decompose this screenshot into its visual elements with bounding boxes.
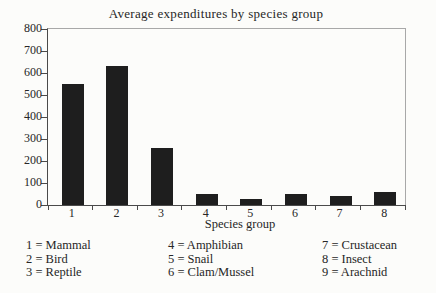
y-tick-label: 100 bbox=[2, 175, 42, 189]
plot-area bbox=[47, 28, 406, 206]
legend-item: 7 = Crustacean bbox=[322, 239, 397, 253]
legend-column: 1 = Mammal2 = Bird3 = Reptile bbox=[26, 239, 91, 280]
legend: 1 = Mammal2 = Bird3 = Reptile4 = Amphibi… bbox=[0, 239, 436, 287]
legend-column: 7 = Crustacean8 = Insect9 = Arachnid bbox=[322, 239, 397, 280]
bar bbox=[374, 192, 396, 205]
x-axis-title: Species group bbox=[140, 217, 340, 232]
x-tick-label: 8 bbox=[362, 206, 407, 220]
y-tick-label: 300 bbox=[2, 131, 42, 145]
y-tick-label: 0 bbox=[2, 197, 42, 211]
legend-item: 3 = Reptile bbox=[26, 266, 91, 280]
legend-item: 6 = Clam/Mussel bbox=[168, 266, 254, 280]
bar bbox=[62, 84, 84, 205]
legend-item: 5 = Snail bbox=[168, 253, 254, 267]
y-tick-label: 700 bbox=[2, 43, 42, 57]
bar bbox=[151, 148, 173, 205]
legend-item: 9 = Arachnid bbox=[322, 266, 397, 280]
legend-item: 1 = Mammal bbox=[26, 239, 91, 253]
chart-title: Average expenditures by species group bbox=[0, 6, 432, 22]
x-tick-label: 1 bbox=[50, 206, 95, 220]
bar bbox=[106, 66, 128, 205]
bar bbox=[285, 194, 307, 205]
y-tick-label: 600 bbox=[2, 65, 42, 79]
bar bbox=[196, 194, 218, 205]
y-tick-label: 500 bbox=[2, 87, 42, 101]
bar bbox=[330, 196, 352, 205]
legend-item: 2 = Bird bbox=[26, 253, 91, 267]
y-tick-label: 400 bbox=[2, 109, 42, 123]
y-tick-label: 200 bbox=[2, 153, 42, 167]
bar-chart-figure: Average expenditures by species group 01… bbox=[0, 0, 436, 293]
bar bbox=[240, 199, 262, 205]
y-tick-label: 800 bbox=[2, 21, 42, 35]
x-tick bbox=[48, 205, 49, 210]
legend-column: 4 = Amphibian5 = Snail6 = Clam/Mussel bbox=[168, 239, 254, 280]
legend-item: 8 = Insect bbox=[322, 253, 397, 267]
x-tick-label: 2 bbox=[94, 206, 139, 220]
legend-item: 4 = Amphibian bbox=[168, 239, 254, 253]
